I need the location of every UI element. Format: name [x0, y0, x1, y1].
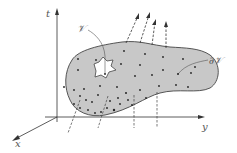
x-axis-label: x	[15, 138, 21, 149]
region-shape	[66, 42, 219, 116]
y-axis-label: y	[201, 121, 208, 132]
t-axis	[55, 8, 59, 122]
boundary-label: ∂𝒱	[209, 55, 226, 66]
t-axis-label: t	[46, 8, 51, 19]
y-axis	[45, 115, 205, 119]
volume-label: 𝒱	[77, 23, 89, 34]
diagram-canvas: t y x 𝒱 ∂𝒱	[0, 0, 237, 153]
arrow-heads	[135, 12, 168, 27]
